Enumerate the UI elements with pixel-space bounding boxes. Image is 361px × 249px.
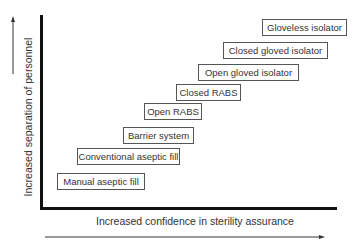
box-open-gloved-isolator: Open gloved isolator (198, 64, 299, 81)
box-barrier-system: Barrier system (123, 127, 194, 144)
box-closed-gloved-isolator: Closed gloved isolator (223, 42, 328, 59)
x-axis-label: Increased confidence in sterility assura… (45, 215, 345, 227)
axis-arrows (0, 0, 361, 249)
box-gloveless-isolator: Gloveless isolator (262, 19, 347, 36)
box-manual-aseptic-fill: Manual aseptic fill (57, 173, 145, 190)
box-open-rabs: Open RABS (144, 103, 202, 120)
box-conventional-aseptic-fill: Conventional aseptic fill (77, 148, 180, 165)
x-arrow-icon (45, 235, 325, 239)
y-axis-line (40, 15, 43, 210)
y-arrow-icon (11, 16, 15, 74)
box-closed-rabs: Closed RABS (176, 84, 241, 101)
x-axis-line (40, 207, 337, 210)
y-axis-label: Increased separation of personnel (22, 17, 34, 217)
